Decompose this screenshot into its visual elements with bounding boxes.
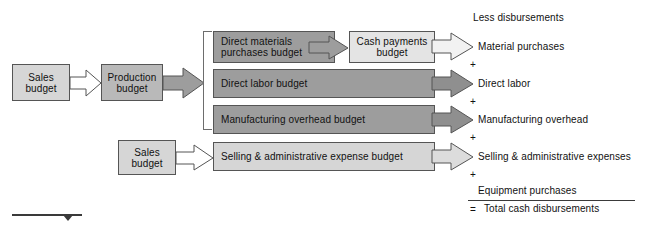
summary-item-material-purchases: Material purchases: [478, 41, 564, 53]
node-sales-budget-top-line1: Sales: [28, 72, 54, 83]
node-sales-budget-top: Sales budget: [12, 64, 70, 101]
arrow-sales-to-selling-admin: [176, 145, 214, 171]
summary-operator-2: +: [470, 97, 476, 107]
node-direct-materials-line1: Direct materials: [221, 36, 292, 47]
arrow-out-direct-labor: [432, 70, 474, 98]
node-sales-budget-bottom: Sales budget: [118, 140, 176, 175]
diagram-canvas: Sales budget Production budget Direct ma…: [0, 0, 648, 232]
node-cash-payments-budget: Cash payments budget: [349, 31, 435, 63]
node-sales-budget-bottom-line1: Sales: [134, 147, 160, 158]
arrow-production-to-group: [163, 68, 205, 98]
summary-heading: Less disbursements: [473, 12, 564, 24]
summary-item-selling-admin-expenses: Selling & administrative expenses: [478, 151, 631, 163]
summary-total-label: Total cash disbursements: [484, 203, 599, 215]
bottom-left-marker-icon: [63, 215, 73, 221]
group-bracket: [203, 31, 212, 130]
node-sales-budget-bottom-text: Sales budget: [131, 147, 162, 169]
node-manufacturing-overhead-budget-label: Manufacturing overhead budget: [221, 114, 365, 125]
arrow-out-material-purchases: [432, 33, 474, 61]
summary-item-direct-labor: Direct labor: [478, 78, 530, 90]
summary-operator-3: +: [470, 133, 476, 143]
arrow-sales-to-production: [70, 70, 102, 96]
node-sales-budget-top-line2: budget: [25, 83, 56, 94]
node-direct-materials-line2: purchases budget: [221, 47, 302, 58]
arrow-out-selling-admin: [432, 143, 474, 171]
node-direct-labor-budget-label: Direct labor budget: [221, 78, 307, 89]
node-direct-labor-budget: Direct labor budget: [213, 69, 435, 98]
node-production-budget-text: Production budget: [108, 72, 157, 94]
node-selling-admin-expense-budget-label: Selling & administrative expense budget: [221, 151, 403, 162]
summary-item-manufacturing-overhead: Manufacturing overhead: [478, 114, 588, 126]
node-direct-materials-text: Direct materials purchases budget: [221, 36, 302, 58]
node-manufacturing-overhead-budget: Manufacturing overhead budget: [213, 105, 435, 134]
summary-operator-4: +: [470, 170, 476, 180]
node-production-budget: Production budget: [101, 64, 163, 101]
arrow-out-manufacturing-overhead: [432, 106, 474, 134]
node-cash-payments-text: Cash payments budget: [357, 36, 428, 58]
node-sales-budget-bottom-line2: budget: [131, 158, 162, 169]
node-selling-admin-expense-budget: Selling & administrative expense budget: [213, 142, 435, 171]
node-cash-payments-line2: budget: [376, 47, 407, 58]
node-sales-budget-top-text: Sales budget: [25, 72, 56, 94]
node-cash-payments-line1: Cash payments: [357, 36, 428, 47]
summary-operator-1: +: [470, 60, 476, 70]
summary-total-operator: =: [470, 204, 476, 215]
arrow-materials-to-cash-payments: [309, 36, 349, 60]
node-production-budget-line1: Production: [108, 72, 157, 83]
summary-item-equipment-purchases: Equipment purchases: [478, 185, 577, 197]
node-production-budget-line2: budget: [116, 83, 147, 94]
summary-total-rule: [468, 200, 635, 201]
